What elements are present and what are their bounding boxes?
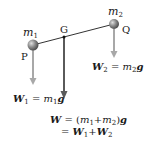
point-g-label: G <box>60 25 68 35</box>
w2-equation: W2 = m2g <box>92 62 143 74</box>
mass-m1-label: m1 <box>23 27 38 40</box>
w1-equation: W1 = m1g <box>13 94 64 106</box>
w-total-arrow-icon <box>61 37 68 99</box>
mass-m1-ball-icon <box>28 40 39 51</box>
rod-line <box>33 24 114 45</box>
point-q-label: Q <box>122 25 130 35</box>
w2-arrow-icon <box>111 29 118 58</box>
mass-m2-label: m2 <box>108 6 123 19</box>
w1-arrow-icon <box>30 50 37 85</box>
point-p-label: P <box>21 52 28 62</box>
center-of-gravity-dot-icon <box>63 36 66 39</box>
mass-m2-ball-icon <box>109 19 119 29</box>
w-total-equation-line2: = W1+W2 <box>61 127 112 139</box>
